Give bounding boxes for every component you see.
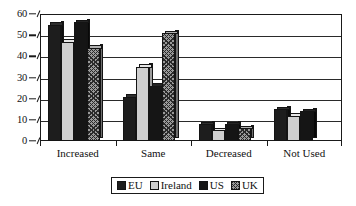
y-axis-tick-mark	[29, 77, 36, 78]
y-axis-tick-label: 30	[17, 73, 27, 83]
bar	[287, 116, 300, 141]
bar-side	[175, 30, 179, 138]
y-axis-tick-mark	[29, 34, 36, 35]
y-axis-tick-label: 40	[17, 51, 27, 61]
bar-face	[149, 86, 162, 141]
x-axis-category-label: Not Used	[283, 147, 325, 159]
bar	[87, 48, 100, 141]
y-axis-tick-mark	[29, 140, 36, 141]
bar-group	[191, 14, 267, 141]
bar-face	[123, 97, 136, 141]
bars-layer	[40, 14, 342, 141]
bar-face	[300, 111, 313, 141]
legend-swatch-icon	[231, 181, 240, 190]
bar	[136, 67, 149, 141]
bar-face	[199, 124, 212, 141]
legend-item[interactable]: US	[199, 180, 224, 191]
legend-item-label: UK	[242, 180, 258, 191]
bar-face	[212, 130, 225, 141]
x-axis-tick-mark	[40, 141, 41, 146]
bar-face	[136, 67, 149, 141]
bar-face	[74, 22, 87, 141]
bar	[199, 124, 212, 141]
y-axis-tick-mark	[29, 98, 36, 99]
y-axis-tick-label: 20	[17, 94, 27, 104]
x-axis-category-label: Same	[141, 147, 165, 159]
bar-face	[287, 116, 300, 141]
bar	[225, 124, 238, 141]
x-axis-tick-mark	[116, 141, 117, 146]
bar-face	[238, 128, 251, 141]
x-axis-tick-mark	[341, 141, 342, 146]
y-axis-tick-label: 60	[17, 9, 27, 19]
legend-swatch-icon	[199, 181, 208, 190]
legend-item-label: Ireland	[161, 180, 192, 191]
bar-group	[116, 14, 192, 141]
legend-item[interactable]: UK	[231, 180, 258, 191]
legend-item[interactable]: Ireland	[150, 180, 192, 191]
bar	[162, 33, 175, 141]
bar	[74, 22, 87, 141]
bar	[274, 109, 287, 141]
bar-face	[87, 48, 100, 141]
x-axis-tick-mark	[191, 141, 192, 146]
bar-face	[61, 42, 74, 141]
bar-side	[100, 44, 104, 137]
y-axis: 0102030405060	[0, 0, 40, 141]
bar	[61, 42, 74, 141]
bar	[123, 97, 136, 141]
y-axis-tick-mark	[29, 13, 36, 14]
bar-chart: 0102030405060 IncreasedSameDecreasedNot …	[0, 0, 356, 206]
bar-face	[225, 124, 238, 141]
bar-face	[162, 33, 175, 141]
bar-group	[267, 14, 343, 141]
bar	[149, 86, 162, 141]
y-axis-tick-mark	[29, 56, 36, 57]
legend-swatch-icon	[150, 181, 159, 190]
y-axis-tick-label: 50	[17, 30, 27, 40]
legend-item-label: US	[210, 180, 224, 191]
bar-group	[40, 14, 116, 141]
bar-face	[48, 25, 61, 141]
legend-swatch-icon	[117, 181, 126, 190]
bar-face	[274, 109, 287, 141]
y-axis-tick-label: 0	[22, 136, 27, 146]
bar	[48, 25, 61, 141]
bar	[212, 130, 225, 141]
x-axis: IncreasedSameDecreasedNot Used	[40, 141, 342, 163]
legend-item[interactable]: EU	[117, 180, 143, 191]
bar	[300, 111, 313, 141]
x-axis-category-label: Increased	[57, 147, 99, 159]
y-axis-tick-label: 10	[17, 115, 27, 125]
legend-item-label: EU	[128, 180, 143, 191]
chart-legend: EUIrelandUSUK	[111, 177, 264, 194]
y-axis-tick-mark	[29, 119, 36, 120]
bar	[238, 128, 251, 141]
x-axis-category-label: Decreased	[206, 147, 252, 159]
x-axis-tick-mark	[267, 141, 268, 146]
